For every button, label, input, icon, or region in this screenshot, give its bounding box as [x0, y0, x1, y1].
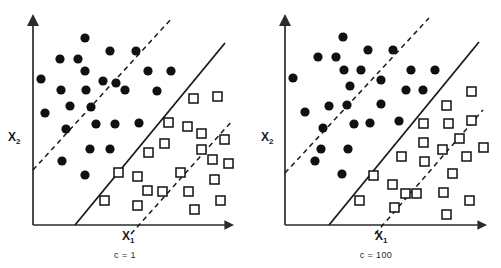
- class-circle-markers-left: [36, 33, 175, 179]
- y-axis-label-left: X2: [8, 130, 20, 144]
- plot-area-left: [0, 0, 250, 268]
- margin-upper-left: [33, 18, 172, 170]
- y-axis-label-right: X2: [261, 130, 273, 144]
- margin-lower-right: [375, 110, 483, 234]
- plot-area-right: [251, 0, 501, 268]
- panel-c-1: X2 X1 c = 1: [0, 0, 250, 268]
- panel-c-100: X2 X1 c = 100: [251, 0, 501, 268]
- class-square-markers-right: [355, 87, 488, 219]
- panel-caption-right: c = 100: [251, 250, 501, 260]
- axes-left: [33, 24, 226, 225]
- x-axis-label-right: X1: [375, 229, 387, 243]
- margin-upper-right: [285, 18, 429, 173]
- class-square-markers-left: [100, 92, 233, 214]
- class-circle-markers-right: [288, 32, 439, 178]
- svm-margin-figure: X2 X1 c = 1: [0, 0, 501, 268]
- x-axis-label-left: X1: [122, 229, 134, 243]
- panel-caption-left: c = 1: [0, 250, 250, 260]
